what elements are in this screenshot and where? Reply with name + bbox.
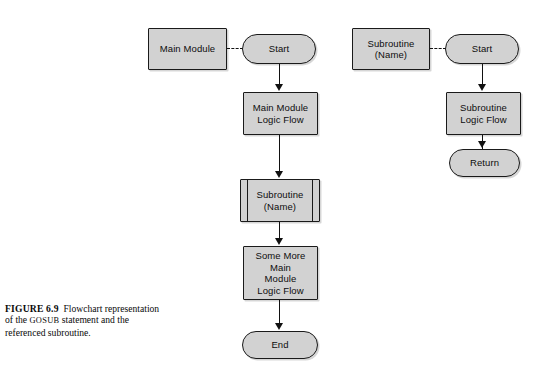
connector-more-logic-to-end xyxy=(279,300,280,324)
figure-caption: FIGURE 6.9 Flowchart representation of t… xyxy=(5,303,165,338)
main-start-node: Start xyxy=(242,34,316,64)
connector-subroutine-to-more-logic xyxy=(279,222,280,239)
sub-start-node: Start xyxy=(445,34,519,64)
main-end-node: End xyxy=(242,331,318,359)
main-module-label-box: Main Module xyxy=(148,28,227,70)
more-main-logic-node: Some More Main Module Logic Flow xyxy=(243,246,318,300)
arrowhead-sub-start-to-sub-logic xyxy=(478,84,486,91)
arrowhead-start-to-main-logic xyxy=(275,84,283,91)
sub-logic-flow-node: Subroutine Logic Flow xyxy=(446,92,521,135)
arrowhead-main-logic-to-subroutine xyxy=(275,171,283,178)
arrowhead-more-logic-to-end xyxy=(275,323,283,330)
main-module-dashed-connector xyxy=(227,48,243,49)
subroutine-name-label-box: Subroutine (Name) xyxy=(352,28,430,70)
figure-6-9: Main Module Start Main Module Logic Flow… xyxy=(0,0,550,380)
sub-return-node: Return xyxy=(449,149,520,177)
subroutine-call-node: Subroutine (Name) xyxy=(240,179,320,222)
figure-caption-label: FIGURE 6.9 xyxy=(5,303,59,314)
connector-sub-start-to-sub-logic xyxy=(482,64,483,85)
arrowhead-sub-logic-to-return xyxy=(478,141,486,148)
subroutine-dashed-connector xyxy=(430,48,446,49)
connector-main-logic-to-subroutine xyxy=(279,135,280,172)
connector-start-to-main-logic xyxy=(279,64,280,85)
figure-caption-gosub-keyword: GOSUB xyxy=(30,316,60,325)
main-logic-flow-node: Main Module Logic Flow xyxy=(243,92,318,135)
arrowhead-subroutine-to-more-logic xyxy=(275,238,283,245)
